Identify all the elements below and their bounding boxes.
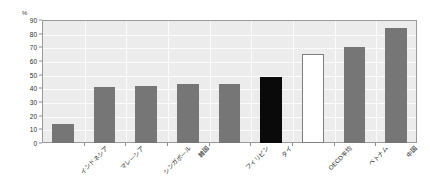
bar <box>52 124 74 143</box>
bar <box>344 47 366 143</box>
x-axis-labels: インドネシアマレーシアシンガポール韓国フィリピンタイOECD平均ベトナム中国 <box>0 143 430 187</box>
x-axis-label: シンガポール <box>162 145 192 175</box>
bar <box>385 28 407 143</box>
x-axis-label: 中国 <box>405 145 418 158</box>
bar <box>219 84 241 143</box>
x-axis-label: マレーシア <box>118 145 144 171</box>
x-axis-label: 韓国 <box>196 145 209 158</box>
bar-chart: % 0102030405060708090 インドネシアマレーシアシンガポール韓… <box>0 0 430 187</box>
bar <box>302 54 324 143</box>
y-axis-tick-label: 50 <box>30 71 37 78</box>
y-axis-tick-label: 70 <box>30 44 37 51</box>
x-axis-label: ベトナム <box>367 145 389 167</box>
bar <box>177 84 199 143</box>
bars-container <box>42 20 417 143</box>
y-axis-tick-label: 40 <box>30 85 37 92</box>
x-axis-label: インドネシア <box>78 145 108 175</box>
x-axis-label: タイ <box>280 145 293 158</box>
y-axis-tick-label: 20 <box>30 112 37 119</box>
bar <box>94 87 116 143</box>
y-axis-tick-label: 80 <box>30 30 37 37</box>
y-axis-tick-label: 60 <box>30 58 37 65</box>
y-axis-tick-label: 30 <box>30 99 37 106</box>
x-axis-label: フィリピン <box>243 145 269 171</box>
bar <box>260 77 282 143</box>
y-axis: 0102030405060708090 <box>0 0 42 163</box>
y-axis-tick-label: 90 <box>30 17 37 24</box>
y-axis-tick-label: 10 <box>30 126 37 133</box>
x-axis-label: OECD平均 <box>327 145 353 171</box>
bar <box>135 86 157 143</box>
